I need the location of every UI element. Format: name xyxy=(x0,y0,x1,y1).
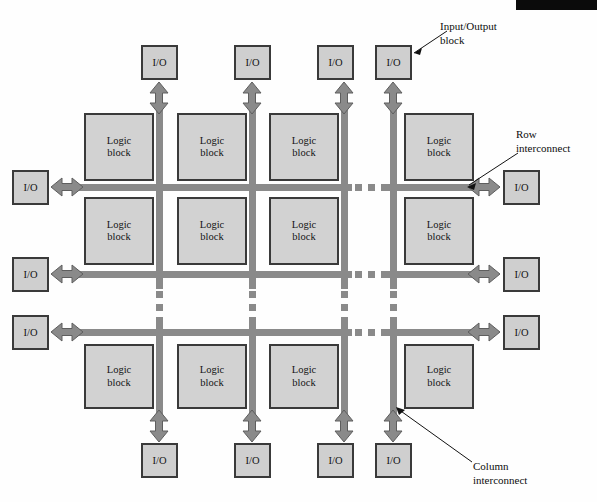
io-block-label: I/O xyxy=(329,455,343,466)
logic-block-label-line2: block xyxy=(427,377,450,389)
logic-block-r2c4: Logic block xyxy=(404,197,474,265)
scan-artifact-bar xyxy=(516,0,597,10)
io-block-bottom-3: I/O xyxy=(317,443,354,478)
logic-block-r1c2: Logic block xyxy=(177,113,247,181)
logic-block-label-line1: Logic xyxy=(200,219,225,231)
io-block-left-2: I/O xyxy=(12,257,49,292)
column-interconnect-4-upper xyxy=(390,100,397,289)
io-block-label: I/O xyxy=(515,269,529,280)
logic-block-label-line1: Logic xyxy=(427,364,452,376)
column-interconnect-3-ellipsis xyxy=(341,291,348,324)
row-interconnect-2-left xyxy=(57,271,352,278)
callout-row-interconnect: Row interconnect xyxy=(516,128,570,156)
connector-arrow-bottom-1 xyxy=(148,410,170,442)
io-block-right-2: I/O xyxy=(503,257,540,292)
logic-block-label-line1: Logic xyxy=(292,219,317,231)
logic-block-r3c2: Logic block xyxy=(177,344,247,409)
column-interconnect-1-ellipsis xyxy=(156,291,163,324)
io-block-left-3: I/O xyxy=(12,315,49,350)
column-interconnect-2-ellipsis xyxy=(249,291,256,324)
connector-arrow-top-3 xyxy=(333,82,355,114)
column-interconnect-2-upper xyxy=(249,100,256,289)
connector-arrow-left-3 xyxy=(51,321,83,343)
column-interconnect-1-upper xyxy=(156,100,163,289)
leader-line-input-output-block xyxy=(405,28,450,58)
logic-block-label-line1: Logic xyxy=(107,364,132,376)
column-interconnect-4-ellipsis xyxy=(390,291,397,324)
logic-block-label-line1: Logic xyxy=(427,219,452,231)
logic-block-label-line1: Logic xyxy=(107,135,132,147)
logic-block-label-line1: Logic xyxy=(292,135,317,147)
logic-block-label-line2: block xyxy=(200,231,223,243)
connector-arrow-right-2 xyxy=(468,263,500,285)
logic-block-label-line2: block xyxy=(292,377,315,389)
logic-block-label-line1: Logic xyxy=(107,219,132,231)
callout-line2: interconnect xyxy=(516,142,570,156)
connector-arrow-bottom-3 xyxy=(333,410,355,442)
logic-block-label-line2: block xyxy=(200,377,223,389)
logic-block-label-line1: Logic xyxy=(427,135,452,147)
row-interconnect-3-left xyxy=(57,329,352,336)
logic-block-label-line2: block xyxy=(107,231,130,243)
leader-line-row-interconnect xyxy=(462,150,522,190)
logic-block-r2c1: Logic block xyxy=(84,197,154,265)
callout-column-interconnect: Column interconnect xyxy=(473,460,527,488)
fpga-diagram-canvas: Logic block Logic block Logic block Logi… xyxy=(0,0,597,502)
io-block-label: I/O xyxy=(24,269,38,280)
callout-line1: Column xyxy=(473,460,527,474)
logic-block-label-line1: Logic xyxy=(292,364,317,376)
logic-block-label-line2: block xyxy=(107,147,130,159)
connector-arrow-top-1 xyxy=(148,82,170,114)
io-block-right-3: I/O xyxy=(503,315,540,350)
callout-line2: interconnect xyxy=(473,474,527,488)
logic-block-label-line2: block xyxy=(200,147,223,159)
connector-arrow-right-3 xyxy=(468,321,500,343)
io-block-label: I/O xyxy=(246,455,260,466)
io-block-bottom-2: I/O xyxy=(234,443,271,478)
logic-block-label-line2: block xyxy=(427,231,450,243)
logic-block-label-line2: block xyxy=(292,147,315,159)
logic-block-label-line2: block xyxy=(107,377,130,389)
connector-arrow-bottom-2 xyxy=(241,410,263,442)
logic-block-label-line2: block xyxy=(292,231,315,243)
connector-arrow-left-2 xyxy=(51,263,83,285)
connector-arrow-top-2 xyxy=(241,82,263,114)
logic-block-r2c2: Logic block xyxy=(177,197,247,265)
row-interconnect-1-left xyxy=(57,184,352,191)
row-interconnect-3-ellipsis xyxy=(355,329,388,336)
logic-block-r3c4: Logic block xyxy=(404,344,474,409)
logic-block-r3c3: Logic block xyxy=(269,344,339,409)
connector-arrow-left-1 xyxy=(51,176,83,198)
io-block-label: I/O xyxy=(246,57,260,68)
io-block-label: I/O xyxy=(24,327,38,338)
io-block-label: I/O xyxy=(153,455,167,466)
row-interconnect-1-ellipsis xyxy=(355,184,388,191)
io-block-top-1: I/O xyxy=(141,45,178,80)
io-block-bottom-1: I/O xyxy=(141,443,178,478)
logic-block-label-line1: Logic xyxy=(200,364,225,376)
column-interconnect-2-lower xyxy=(249,324,256,420)
logic-block-label-line2: block xyxy=(427,147,450,159)
io-block-top-2: I/O xyxy=(234,45,271,80)
io-block-label: I/O xyxy=(387,57,401,68)
io-block-label: I/O xyxy=(329,57,343,68)
logic-block-r3c1: Logic block xyxy=(84,344,154,409)
io-block-label: I/O xyxy=(515,327,529,338)
connector-arrow-top-4 xyxy=(382,82,404,114)
logic-block-r1c1: Logic block xyxy=(84,113,154,181)
io-block-top-3: I/O xyxy=(317,45,354,80)
callout-line1: Row xyxy=(516,128,570,142)
column-interconnect-3-upper xyxy=(341,100,348,289)
logic-block-r1c3: Logic block xyxy=(269,113,339,181)
io-block-label: I/O xyxy=(153,57,167,68)
logic-block-r2c3: Logic block xyxy=(269,197,339,265)
column-interconnect-1-lower xyxy=(156,324,163,420)
logic-block-label-line1: Logic xyxy=(200,135,225,147)
row-interconnect-2-ellipsis xyxy=(355,271,388,278)
leader-line-column-interconnect xyxy=(392,404,477,466)
column-interconnect-3-lower xyxy=(341,324,348,420)
io-block-label: I/O xyxy=(24,182,38,193)
io-block-left-1: I/O xyxy=(12,170,49,205)
